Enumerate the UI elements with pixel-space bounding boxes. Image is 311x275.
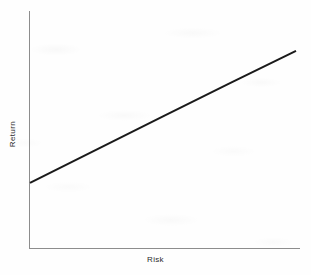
chart-screenshot: Return Risk <box>0 0 311 275</box>
y-axis-label: Return <box>9 121 17 147</box>
data-series-line <box>30 51 296 183</box>
risk-return-line-chart <box>0 0 311 275</box>
x-axis-label: Risk <box>0 256 311 264</box>
